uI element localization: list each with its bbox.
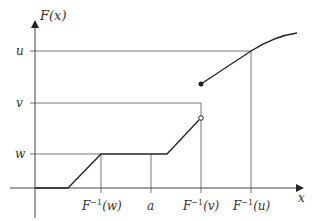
y-level-v: v	[16, 96, 23, 110]
cdf-diagram: F(x) x u v w F−1(w) a F−1(v) F−1(u)	[0, 0, 312, 221]
y-axis-label: F(x)	[39, 8, 67, 23]
filled-dot-endpoint	[199, 82, 204, 87]
cdf-curve	[35, 33, 297, 188]
x-tick-a: a	[147, 199, 154, 213]
y-level-u: u	[16, 44, 24, 58]
x-axis-label: x	[298, 191, 305, 205]
x-tick-F-inverse-w: F−1(w)	[81, 198, 122, 213]
x-tick-F-inverse-v: F−1(v)	[182, 198, 220, 213]
open-circle-endpoint	[199, 116, 204, 121]
curve-segment-upper	[201, 33, 297, 84]
y-level-w: w	[15, 147, 26, 161]
x-tick-F-inverse-u: F−1(u)	[232, 198, 271, 213]
